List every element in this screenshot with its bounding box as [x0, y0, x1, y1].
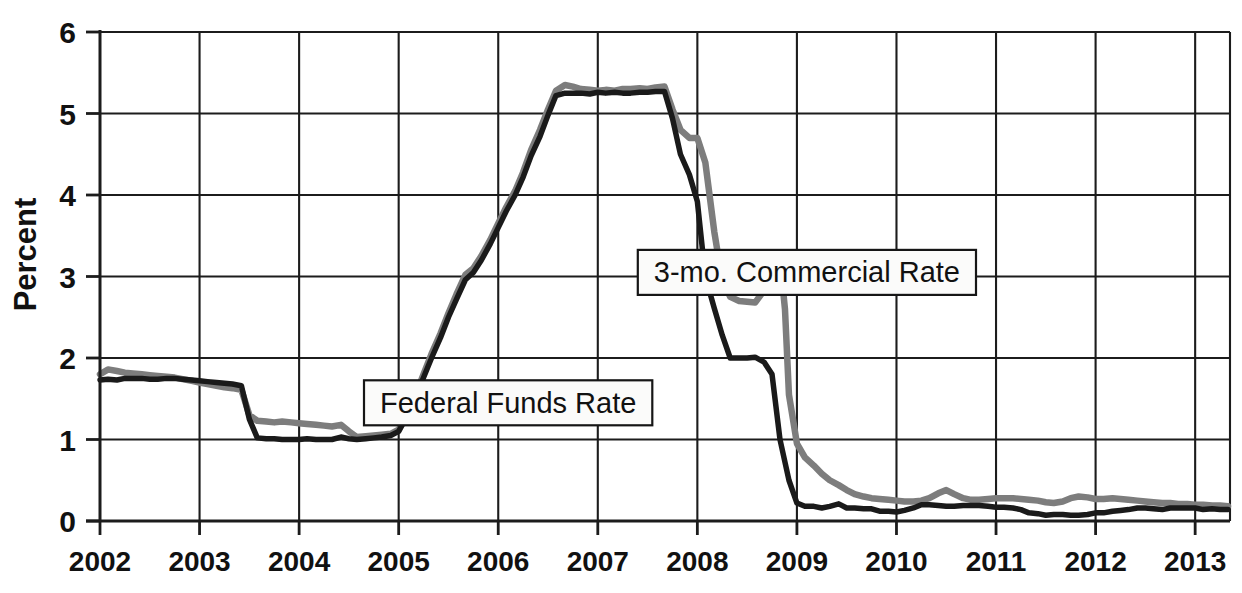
chart-canvas: 0123456200220032004200520062007200820092… — [0, 0, 1242, 593]
y-tick-label: 1 — [59, 424, 76, 457]
x-tick-label: 2010 — [865, 546, 927, 577]
federal-funds-rate-label: Federal Funds Rate — [364, 380, 652, 425]
commercial-rate-label-text: 3-mo. Commercial Rate — [654, 256, 960, 288]
x-tick-label: 2007 — [567, 546, 629, 577]
commercial-rate-label: 3-mo. Commercial Rate — [638, 250, 976, 295]
x-tick-label: 2013 — [1164, 546, 1226, 577]
y-tick-label: 3 — [59, 261, 76, 294]
series-line-federal-funds-rate — [100, 92, 1228, 516]
federal-funds-rate-label-text: Federal Funds Rate — [380, 387, 636, 419]
y-axis-title-layer: Percent — [8, 198, 43, 312]
y-tick-label: 5 — [59, 98, 76, 131]
y-tick-label: 4 — [59, 179, 76, 212]
y-tick-label: 2 — [59, 342, 76, 375]
x-tick-label: 2003 — [168, 546, 230, 577]
y-tick-label: 0 — [59, 505, 76, 538]
x-tick-label: 2006 — [467, 546, 529, 577]
tick-label-layer: 0123456200220032004200520062007200820092… — [59, 16, 1226, 577]
x-tick-label: 2004 — [268, 546, 331, 577]
x-tick-label: 2009 — [766, 546, 828, 577]
x-tick-label: 2008 — [666, 546, 728, 577]
y-tick-label: 6 — [59, 16, 76, 49]
x-tick-label: 2002 — [69, 546, 131, 577]
x-tick-label: 2011 — [966, 546, 1027, 577]
interest-rate-chart: 0123456200220032004200520062007200820092… — [0, 0, 1242, 593]
x-tick-label: 2005 — [368, 546, 430, 577]
series-layer — [100, 85, 1228, 515]
y-axis-title: Percent — [8, 198, 43, 312]
x-tick-label: 2012 — [1064, 546, 1126, 577]
